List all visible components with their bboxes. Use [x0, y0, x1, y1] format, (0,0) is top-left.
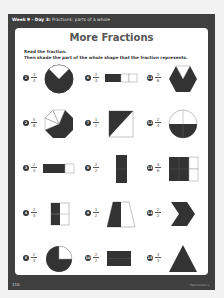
- problem-15: 15 33: [147, 242, 209, 278]
- problem-2: 2 58: [23, 107, 85, 143]
- fraction: 22: [155, 207, 161, 218]
- hexagon-shape[interactable]: [165, 62, 201, 96]
- problem-6: 6 24: [85, 62, 147, 98]
- problem-8: 8 22: [85, 152, 147, 188]
- problem-14: 14 22: [147, 197, 209, 233]
- problem-11: 11 56: [147, 62, 209, 98]
- circle-thirds-shape[interactable]: [41, 242, 77, 276]
- problem-number: 15: [147, 255, 153, 261]
- problem-10: 10 22: [85, 242, 147, 278]
- footer-label: Mathematics: [190, 283, 209, 287]
- problem-12: 12 24: [147, 107, 209, 143]
- problem-number: 7: [85, 120, 91, 126]
- problem-number: 1: [23, 75, 29, 81]
- grid-4-shape[interactable]: [41, 197, 77, 231]
- fraction: 33: [155, 252, 161, 263]
- fraction: 23: [31, 252, 37, 263]
- fraction: 58: [31, 117, 37, 128]
- problem-number: 6: [85, 75, 91, 81]
- rect-vertical-shape[interactable]: [103, 152, 139, 186]
- week-day-label: Week 9 · Day 3:: [12, 17, 51, 22]
- instructions: Read the fraction. Then shade the part o…: [24, 49, 188, 60]
- problem-13: 13 46: [147, 152, 209, 188]
- fraction: 34: [31, 72, 37, 83]
- fraction: 22: [93, 252, 99, 263]
- square-shape[interactable]: [103, 107, 139, 141]
- problem-number: 5: [23, 255, 29, 261]
- fraction: 12: [93, 117, 99, 128]
- problem-4: 4 24: [23, 197, 85, 233]
- circle-shape[interactable]: [41, 62, 77, 96]
- problem-5: 5 23: [23, 242, 85, 278]
- problem-number: 2: [23, 120, 29, 126]
- week-day-header: Week 9 · Day 3: Fractions: parts of a wh…: [12, 17, 110, 22]
- rect-horizontal-shape[interactable]: [103, 242, 139, 276]
- problem-number: 8: [85, 165, 91, 171]
- fraction: 24: [31, 207, 37, 218]
- problem-number: 4: [23, 210, 29, 216]
- problem-number: 10: [85, 255, 91, 261]
- instruction-line-2: Then shade the part of the whole shape t…: [24, 55, 188, 61]
- fraction: 24: [93, 72, 99, 83]
- problem-number: 9: [85, 210, 91, 216]
- page-number: 110: [12, 282, 20, 287]
- fraction: 22: [93, 162, 99, 173]
- topic-label: Fractions: parts of a whole: [52, 17, 110, 22]
- fraction: 23: [31, 162, 37, 173]
- problem-number: 3: [23, 165, 29, 171]
- bar-shape[interactable]: [103, 62, 139, 96]
- problem-number: 12: [147, 120, 153, 126]
- problem-3: 3 23: [23, 152, 85, 188]
- problem-number: 13: [147, 165, 153, 171]
- triangle-shape[interactable]: [165, 242, 201, 276]
- bar-thirds-shape[interactable]: [41, 152, 77, 186]
- circle-quarters-shape[interactable]: [165, 107, 201, 141]
- fraction: 46: [155, 162, 161, 173]
- worksheet-card: More Fractions Read the fraction. Then s…: [15, 28, 208, 275]
- fraction: 12: [93, 207, 99, 218]
- problem-9: 9 12: [85, 197, 147, 233]
- grid-6-shape[interactable]: [165, 152, 201, 186]
- fraction: 24: [155, 117, 161, 128]
- problem-number: 11: [147, 75, 153, 81]
- problem-number: 14: [147, 210, 153, 216]
- worksheet-page: Week 9 · Day 3: Fractions: parts of a wh…: [8, 14, 215, 290]
- fraction: 56: [155, 72, 161, 83]
- page-title: More Fractions: [15, 32, 208, 43]
- problem-7: 7 12: [85, 107, 147, 143]
- trapezoid-shape[interactable]: [103, 197, 139, 231]
- chevron-shape[interactable]: [165, 197, 201, 231]
- problem-1: 1 34: [23, 62, 85, 98]
- octagon-shape[interactable]: [41, 107, 77, 141]
